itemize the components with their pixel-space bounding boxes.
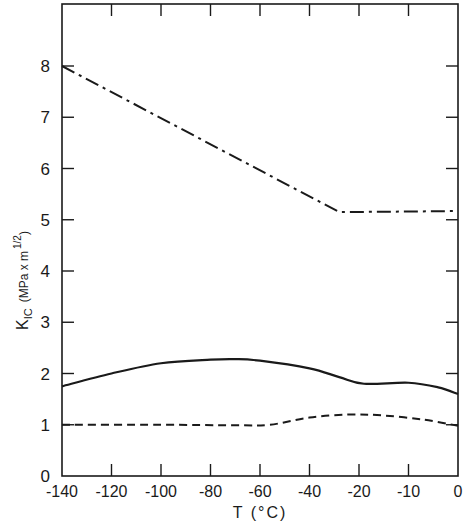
series-line-solid — [62, 359, 458, 394]
x-tick-label: -60 — [248, 483, 271, 500]
series-line-dashed — [62, 414, 458, 425]
x-tick-label: -40 — [298, 483, 321, 500]
y-label-sub: IC — [22, 308, 34, 319]
x-tick-label: -100 — [145, 483, 177, 500]
y-tick-label: 2 — [41, 365, 50, 384]
y-label-sup: 1/2 — [12, 235, 23, 249]
x-tick-label: -80 — [199, 483, 222, 500]
y-tick-label: 7 — [41, 108, 50, 127]
x-tick-label: -10 — [397, 483, 420, 500]
x-axis-tick-labels: -140-120-100-80-60-40-20-100 — [46, 483, 463, 500]
svg-text:KIC(MPa x m1/2): KIC(MPa x m1/2) — [12, 231, 34, 330]
y-axis-tick-labels: 012345678 — [41, 57, 50, 486]
y-tick-label: 5 — [41, 211, 50, 230]
y-tick-label: 1 — [41, 416, 50, 435]
y-label-close: ) — [17, 231, 31, 235]
x-tick-label: -140 — [46, 483, 78, 500]
plot-frame — [62, 4, 458, 476]
y-tick-label: 4 — [41, 262, 50, 281]
y-tick-label: 0 — [41, 467, 50, 486]
x-tick-label: -20 — [347, 483, 370, 500]
y-axis-label: KIC(MPa x m1/2) — [12, 231, 34, 330]
y-label-main: K — [14, 319, 31, 330]
y-tick-label: 6 — [41, 160, 50, 179]
x-tick-label: 0 — [454, 483, 463, 500]
x-axis-label: T (°C) — [233, 504, 288, 521]
y-tick-label: 8 — [41, 57, 50, 76]
x-tick-label: -120 — [95, 483, 127, 500]
x-axis-ticks — [112, 4, 409, 476]
series-line-dash-dot — [62, 66, 453, 212]
y-label-units: (MPa x m — [17, 251, 31, 302]
y-tick-label: 3 — [41, 313, 50, 332]
chart: -140-120-100-80-60-40-20-100 012345678 T… — [0, 0, 463, 525]
series-group — [62, 66, 458, 426]
